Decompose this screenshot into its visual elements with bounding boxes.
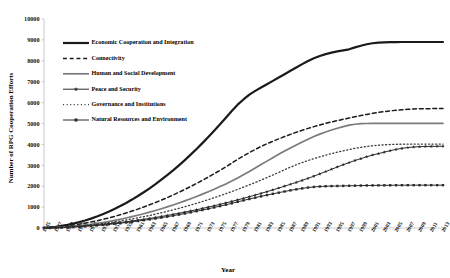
x-tick-label: 1967 [170, 220, 181, 233]
series-marker [90, 225, 92, 227]
series-marker [189, 211, 191, 213]
series-marker [359, 157, 363, 160]
series-marker [365, 155, 369, 158]
series-marker [353, 159, 357, 162]
series-marker [401, 184, 403, 186]
series-marker [307, 186, 309, 188]
series-marker [66, 226, 68, 228]
x-tick-label: 2001 [369, 220, 380, 233]
series-marker [354, 184, 356, 186]
x-tick-label: 1995 [334, 220, 345, 233]
series-marker [289, 189, 291, 191]
series-marker [78, 225, 80, 227]
series-marker [424, 145, 428, 148]
series-marker [383, 150, 387, 153]
series-marker [248, 195, 252, 198]
x-tick-label: 1981 [252, 220, 263, 233]
x-tick-label: 2009 [416, 220, 427, 233]
legend-label: Peace and Security [92, 86, 141, 92]
series-marker [201, 209, 203, 211]
series-marker [213, 206, 215, 208]
series-marker [225, 204, 227, 206]
series-marker [72, 226, 74, 228]
series-marker [295, 180, 299, 183]
series-marker [283, 184, 287, 187]
series-marker [260, 195, 262, 197]
x-tick-label: 1991 [311, 220, 322, 233]
series-marker [306, 176, 310, 179]
x-tick-label: 1973 [205, 220, 216, 233]
x-tick-label: 1961 [135, 220, 146, 233]
series-marker [424, 184, 426, 186]
series-marker [271, 188, 275, 191]
series-marker [113, 223, 115, 225]
x-tick-label: 2005 [393, 220, 404, 233]
series-marker [272, 193, 274, 195]
series-marker [400, 146, 404, 149]
series-marker [143, 219, 145, 221]
series-marker [442, 184, 444, 186]
x-tick-label: 1993 [323, 220, 334, 233]
x-tick-label: 2011 [428, 221, 439, 233]
series-marker [265, 190, 269, 193]
x-tick-label: 1969 [182, 220, 193, 233]
chart-legend: Economic Cooperation and IntegrationConn… [63, 39, 194, 122]
series-marker [441, 144, 445, 147]
series-marker [231, 202, 233, 204]
x-tick-label: 1985 [276, 220, 287, 233]
y-tick-label: 9000 [27, 36, 39, 43]
y-tick-label: 5000 [27, 120, 39, 127]
series-marker [394, 148, 398, 151]
y-axis-title: Number of RPG Cooperation Efforts [7, 72, 15, 183]
x-axis-title: Year [221, 266, 235, 274]
y-tick-label: 4000 [27, 141, 39, 148]
series-marker [360, 184, 362, 186]
series-marker [277, 186, 281, 189]
series-marker [266, 194, 268, 196]
series-marker [313, 186, 315, 188]
x-tick-label: 2003 [381, 220, 392, 233]
series-marker [295, 188, 297, 190]
series-marker [154, 217, 156, 219]
series-marker [429, 144, 433, 147]
series-marker [107, 223, 109, 225]
x-tick-label: 1963 [146, 220, 157, 233]
series-marker [60, 226, 62, 228]
series-marker [101, 224, 103, 226]
line-chart: 0100020003000400050006000700080009000100… [0, 0, 450, 278]
series-marker [125, 221, 127, 223]
series-marker [348, 185, 350, 187]
series-marker [278, 191, 280, 193]
series-marker [435, 144, 439, 147]
series-marker [160, 216, 162, 218]
legend-label: Connectivity [92, 55, 125, 61]
series-marker [43, 227, 45, 229]
series-marker [347, 161, 351, 164]
y-axis: 0100020003000400050006000700080009000100… [24, 15, 44, 231]
x-tick-label: 1965 [158, 220, 169, 233]
series-line [44, 123, 443, 228]
series-marker [406, 146, 410, 149]
series-marker [254, 196, 256, 198]
series-marker [84, 225, 86, 227]
series-marker [96, 224, 98, 226]
legend-label: Natural Resources and Environment [92, 116, 187, 122]
legend-label: Human and Social Development [92, 70, 176, 76]
series-marker [55, 227, 57, 229]
series-marker [377, 152, 381, 155]
x-tick-label: 1975 [217, 220, 228, 233]
series-marker [389, 184, 391, 186]
y-tick-label: 6000 [27, 99, 39, 106]
series-marker [336, 185, 338, 187]
series-marker [148, 218, 150, 220]
series-marker [430, 184, 432, 186]
y-tick-label: 10000 [24, 15, 39, 22]
x-tick-label: 1971 [193, 220, 204, 233]
series-marker [283, 190, 285, 192]
series-marker [371, 184, 373, 186]
y-tick-label: 7000 [27, 78, 39, 85]
series-marker [395, 184, 397, 186]
series-marker [324, 185, 326, 187]
series-marker [377, 184, 379, 186]
y-tick-label: 8000 [27, 57, 39, 64]
